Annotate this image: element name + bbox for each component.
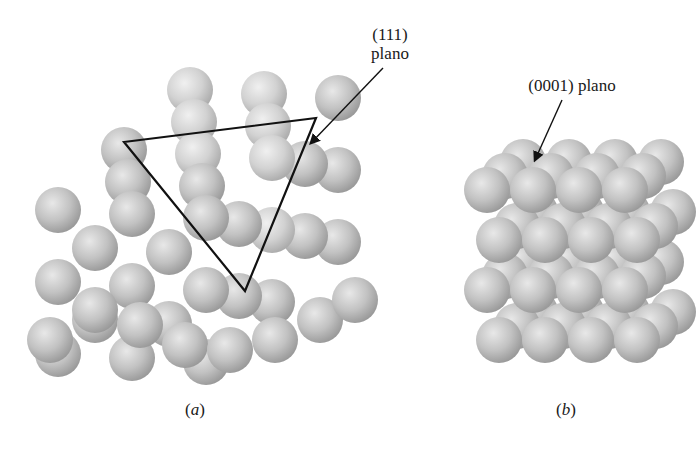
atom-sphere (27, 317, 73, 363)
atom-sphere (72, 225, 118, 271)
atom-sphere (476, 217, 522, 263)
atom-sphere (556, 167, 602, 213)
atom-sphere (146, 229, 192, 275)
atom-sphere (614, 317, 660, 363)
label-0001-plane: (0001) plano (512, 76, 632, 95)
atom-sphere (249, 135, 295, 181)
atom-sphere (510, 267, 556, 313)
atom-sphere (522, 217, 568, 263)
atom-sphere (35, 187, 81, 233)
atom-sphere (602, 167, 648, 213)
atom-sphere (614, 217, 660, 263)
atom-sphere (109, 191, 155, 237)
atom-sphere (183, 267, 229, 313)
atom-sphere (183, 195, 229, 241)
caption-a: (a) (185, 400, 205, 420)
caption-b: (b) (556, 400, 576, 420)
atom-sphere (476, 317, 522, 363)
atom-sphere (117, 302, 163, 348)
atom-sphere (162, 322, 208, 368)
atom-sphere (207, 327, 253, 373)
atom-sphere (568, 317, 614, 363)
label-111-plane: (111) plano (360, 25, 420, 63)
hcp-sphere-cluster (464, 139, 696, 363)
fcc-sphere-cluster (27, 67, 378, 385)
atom-sphere (510, 167, 556, 213)
label-plano-a: plano (360, 44, 420, 63)
atom-sphere (568, 217, 614, 263)
atom-sphere (252, 317, 298, 363)
atom-sphere (332, 277, 378, 323)
atom-sphere (522, 317, 568, 363)
atom-sphere (602, 267, 648, 313)
atom-sphere (464, 267, 510, 313)
atom-sphere (72, 287, 118, 333)
atom-sphere (35, 259, 81, 305)
crystal-diagram (0, 0, 696, 461)
label-111: (111) (360, 25, 420, 44)
atom-sphere (556, 267, 602, 313)
atom-sphere (464, 167, 510, 213)
